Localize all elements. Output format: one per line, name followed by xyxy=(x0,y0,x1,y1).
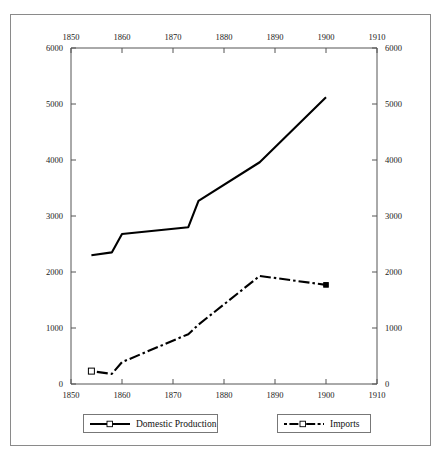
bottom-axis-tick-1910: 1910 xyxy=(369,391,386,400)
series-marker-imports-start xyxy=(88,368,94,374)
left-axis-tick-1000: 1000 xyxy=(46,324,63,333)
right-axis-tick-1000: 1000 xyxy=(385,324,402,333)
legend-swatch-dashdot xyxy=(283,418,325,430)
bottom-axis-tick-1870: 1870 xyxy=(165,391,182,400)
tick-marks xyxy=(71,48,377,384)
right-axis-tick-0: 0 xyxy=(385,380,389,389)
legend-label-imports: Imports xyxy=(330,419,360,429)
chart-screenshot: 1850186018701880189019001910185018601870… xyxy=(0,0,443,461)
right-axis-tick-2000: 2000 xyxy=(385,268,402,277)
right-axis-tick-3000: 3000 xyxy=(385,212,402,221)
bottom-axis-tick-1850: 1850 xyxy=(63,391,80,400)
right-axis-tick-4000: 4000 xyxy=(385,156,402,165)
top-axis-tick-1890: 1890 xyxy=(267,33,284,42)
series-marker-imports-end xyxy=(324,283,329,288)
top-axis-tick-1870: 1870 xyxy=(165,33,182,42)
right-axis-tick-5000: 5000 xyxy=(385,100,402,109)
legend-item-imports[interactable]: Imports xyxy=(277,414,371,433)
left-axis-tick-3000: 3000 xyxy=(46,212,63,221)
legend-label-domestic-production: Domestic Production xyxy=(136,419,216,429)
bottom-axis-tick-1880: 1880 xyxy=(216,391,233,400)
series-line-domestic-production xyxy=(91,97,326,255)
left-axis-tick-5000: 5000 xyxy=(46,100,63,109)
axis-lines xyxy=(71,48,377,384)
series-line-imports xyxy=(91,276,326,374)
bottom-axis-tick-1860: 1860 xyxy=(114,391,131,400)
left-axis-tick-0: 0 xyxy=(59,380,63,389)
top-axis-tick-1900: 1900 xyxy=(318,33,335,42)
legend-swatch-solid xyxy=(89,418,131,430)
left-axis-tick-2000: 2000 xyxy=(46,268,63,277)
legend-item-domestic-production[interactable]: Domestic Production xyxy=(83,414,218,433)
bottom-axis-tick-1890: 1890 xyxy=(267,391,284,400)
top-axis-tick-1880: 1880 xyxy=(216,33,233,42)
left-axis-tick-6000: 6000 xyxy=(46,44,63,53)
bottom-axis-tick-1900: 1900 xyxy=(318,391,335,400)
top-axis-tick-1860: 1860 xyxy=(114,33,131,42)
top-axis-tick-1850: 1850 xyxy=(63,33,80,42)
left-axis-tick-4000: 4000 xyxy=(46,156,63,165)
right-axis-tick-6000: 6000 xyxy=(385,44,402,53)
series-layer xyxy=(88,97,328,374)
top-axis-tick-1910: 1910 xyxy=(369,33,386,42)
